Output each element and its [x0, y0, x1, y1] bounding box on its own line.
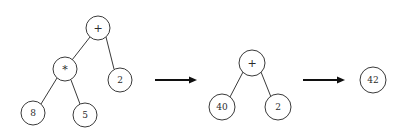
stage-2-tree: + 40 2 [209, 50, 291, 120]
stage-3-tree: 42 [360, 67, 386, 93]
tree-node-forty: 40 [209, 94, 235, 120]
reduction-arrow-1 [155, 77, 197, 84]
tree-node-plus-root: + [86, 16, 110, 40]
arrow-head-icon [189, 77, 197, 84]
tree-node-eight: 8 [21, 101, 45, 125]
expression-tree-reduction-diagram: + * 2 8 5 [0, 0, 401, 139]
node-label: 5 [82, 110, 88, 120]
node-label: * [62, 63, 68, 76]
diagram-canvas: + * 2 8 5 [0, 0, 401, 139]
reduction-arrow-2 [303, 77, 345, 84]
edge-root-to-two [261, 72, 271, 97]
tree-node-plus-root: + [239, 50, 265, 76]
node-label: 40 [216, 102, 228, 112]
node-label: + [93, 22, 102, 35]
edge-root-to-mul [72, 37, 90, 60]
node-label: + [247, 57, 256, 70]
tree-node-two: 2 [265, 94, 291, 120]
edge-root-to-two [106, 37, 114, 69]
node-label: 8 [30, 108, 36, 118]
node-label: 2 [117, 75, 123, 85]
tree-node-multiply: * [53, 57, 77, 81]
tree-node-two: 2 [108, 68, 132, 92]
tree-node-result: 42 [360, 67, 386, 93]
edge-root-to-forty [230, 72, 243, 97]
tree-node-five: 5 [73, 103, 97, 127]
stage-1-edges [41, 37, 114, 104]
node-label: 2 [275, 102, 281, 112]
stage-1-tree: + * 2 8 5 [21, 16, 132, 127]
edge-mul-to-five [71, 80, 80, 104]
edge-mul-to-eight [41, 78, 57, 104]
node-label: 42 [367, 75, 378, 85]
arrow-head-icon [337, 77, 345, 84]
